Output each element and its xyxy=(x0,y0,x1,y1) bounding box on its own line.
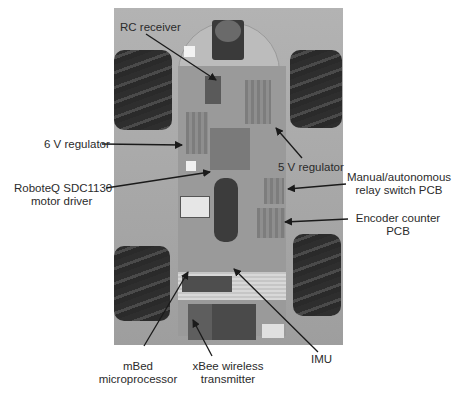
label-xbee-line1: xBee wireless xyxy=(183,360,273,373)
white-marker-2 xyxy=(186,161,196,171)
label-mbed-line1: mBed xyxy=(98,360,178,373)
roboteq-driver-board xyxy=(210,128,250,170)
connector-block xyxy=(180,196,210,218)
xbee-module xyxy=(188,304,212,340)
tire-rear-left xyxy=(114,246,170,321)
label-five-v-regulator: 5 V regulator xyxy=(278,161,344,174)
mbed-board xyxy=(182,276,232,292)
top-battery-label xyxy=(215,20,241,42)
label-roboteq-line1: RoboteQ SDC1130 xyxy=(14,182,102,195)
robot-photo xyxy=(114,8,343,345)
six-v-regulator-board xyxy=(186,112,208,154)
tire-rear-right xyxy=(293,234,341,316)
label-relay-switch-pcb: Manual/autonomous relay switch PCB xyxy=(346,171,452,197)
label-xbee-transmitter: xBee wireless transmitter xyxy=(183,360,273,386)
label-rc-receiver: RC receiver xyxy=(120,21,181,34)
label-xbee-line2: transmitter xyxy=(183,373,273,386)
encoder-counter-board xyxy=(257,208,285,238)
label-encoder-counter-pcb: Encoder counter PCB xyxy=(350,212,446,238)
label-mbed-microprocessor: mBed microprocessor xyxy=(98,360,178,386)
label-mbed-line2: microprocessor xyxy=(98,373,178,386)
cable-bundle xyxy=(214,178,238,242)
label-six-v-regulator: 6 V regulator xyxy=(44,138,110,151)
bottom-battery xyxy=(212,304,256,340)
label-encoder-line1: Encoder counter xyxy=(350,212,446,225)
rc-receiver xyxy=(205,76,221,104)
white-marker xyxy=(184,46,195,57)
label-relay-line2: relay switch PCB xyxy=(346,184,452,197)
label-relay-line1: Manual/autonomous xyxy=(346,171,452,184)
label-encoder-line2: PCB xyxy=(350,225,446,238)
tire-front-right xyxy=(290,50,342,128)
label-roboteq-line2: motor driver xyxy=(14,195,102,208)
label-imu: IMU xyxy=(311,353,332,366)
five-v-regulator-board xyxy=(245,80,271,124)
label-roboteq-motor-driver: RoboteQ SDC1130 motor driver xyxy=(14,182,102,208)
tire-front-left xyxy=(114,50,172,130)
relay-switch-board xyxy=(264,178,284,204)
sticker-label xyxy=(262,324,284,338)
